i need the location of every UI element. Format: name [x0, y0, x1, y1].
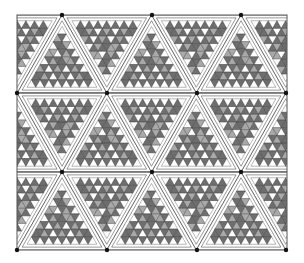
pattern-cell: [9, 44, 18, 52]
pattern-cell: [300, 237, 304, 245]
pattern-cell: [9, 193, 18, 201]
pattern-cell: [0, 80, 7, 88]
pattern-cell: [4, 44, 13, 52]
pattern-cell: [294, 128, 303, 136]
pattern-cell: [294, 151, 303, 159]
pattern-cell: [0, 21, 9, 29]
pattern-cell: [303, 151, 304, 159]
pattern-cell: [303, 143, 304, 151]
pattern-cell: [290, 208, 299, 216]
pattern-cell: [299, 151, 304, 159]
pattern-cell: [9, 128, 18, 136]
pattern-cell: [9, 66, 18, 74]
pattern-cell: [290, 193, 299, 201]
pattern-cell: [9, 36, 18, 44]
pattern-cell: [0, 128, 9, 136]
pattern-cell: [0, 178, 12, 247]
pattern-cell: [0, 93, 17, 172]
pattern-cell: [0, 151, 9, 159]
pattern-cell: [0, 44, 4, 52]
pattern-cell: [0, 51, 9, 59]
pattern-cell: [299, 135, 304, 143]
pattern-cell: [294, 143, 303, 151]
pattern-cell: [0, 185, 9, 193]
pattern-cell: [0, 178, 4, 186]
pattern-cell: [290, 201, 299, 209]
pattern-cell: [300, 72, 304, 80]
pattern-cell: [0, 229, 3, 237]
hub-dot: [105, 248, 109, 252]
pattern-cell: [290, 128, 299, 136]
pattern-cell: [296, 237, 304, 245]
pattern-cell: [0, 36, 9, 44]
pattern-cell: [290, 36, 299, 44]
pattern-cell: [299, 178, 304, 186]
pattern-cell: [299, 185, 304, 193]
pattern-cell: [294, 44, 303, 52]
pattern-cell: [0, 201, 9, 209]
pattern-cell: [299, 201, 304, 209]
hub-dot: [284, 91, 288, 95]
pattern-cell: [9, 120, 18, 128]
triangle-tessellation-figure: [0, 0, 304, 263]
pattern-cell: [0, 143, 4, 151]
pattern-cell: [290, 44, 299, 52]
pattern-cell: [290, 59, 299, 67]
pattern-cell: [4, 51, 13, 59]
pattern-cell: [9, 223, 18, 231]
pattern-cell: [4, 193, 13, 201]
pattern-cell: [303, 21, 304, 29]
pattern-cell: [291, 96, 304, 166]
pattern-cell: [299, 159, 304, 167]
pattern-cell: [299, 143, 304, 151]
pattern-cell: [290, 159, 299, 167]
pattern-cell: [294, 208, 303, 216]
pattern-cell: [9, 178, 18, 186]
pattern-cell: [4, 21, 13, 29]
pattern-cell: [290, 216, 299, 224]
pattern-cell: [9, 51, 18, 59]
pattern-cell: [9, 28, 18, 36]
hub-dot: [150, 13, 154, 17]
pattern-cell: [0, 178, 9, 186]
pattern-cell: [9, 185, 18, 193]
pattern-cell: [4, 185, 13, 193]
pattern-tiles: [0, 15, 304, 250]
pattern-cell: [290, 143, 299, 151]
pattern-cell: [9, 151, 18, 159]
pattern-cell: [290, 151, 299, 159]
pattern-cell: [300, 107, 304, 115]
pattern-cell: [0, 159, 9, 167]
hub-dot: [195, 248, 199, 252]
pattern-cell: [0, 201, 4, 209]
pattern-cell: [303, 185, 304, 193]
pattern-cell: [0, 237, 3, 245]
pattern-cell: [0, 208, 9, 216]
pattern-cell: [303, 178, 304, 186]
pattern-cell: [0, 151, 4, 159]
hub-dot: [60, 13, 64, 17]
pattern-cell: [0, 28, 4, 36]
pattern-cell: [9, 135, 18, 143]
pattern-cell: [4, 201, 13, 209]
pattern-cell: [299, 21, 304, 29]
pattern-cell: [0, 143, 9, 151]
pattern-cell: [303, 159, 304, 167]
pattern-cell: [294, 36, 303, 44]
pattern-cell: [300, 229, 304, 237]
pattern-cell: [0, 135, 9, 143]
hub-dot: [105, 91, 109, 95]
pattern-cell: [296, 99, 304, 107]
pattern-cell: [294, 193, 303, 201]
pattern-cell: [4, 151, 13, 159]
pattern-cell: [294, 28, 303, 36]
pattern-cell: [4, 159, 13, 167]
pattern-cell: [299, 36, 304, 44]
pattern-cell: [294, 185, 303, 193]
pattern-cell: [294, 21, 303, 29]
pattern-cell: [0, 44, 9, 52]
pattern-cell: [290, 178, 299, 186]
pattern-cell: [299, 44, 304, 52]
hub-dot: [239, 13, 243, 17]
pattern-cell: [286, 15, 304, 93]
